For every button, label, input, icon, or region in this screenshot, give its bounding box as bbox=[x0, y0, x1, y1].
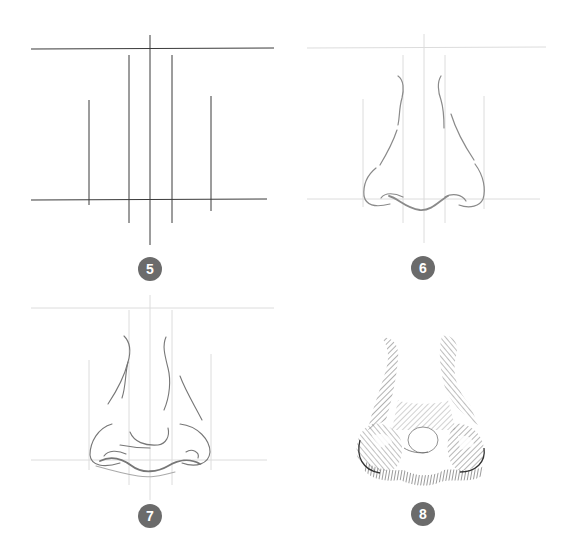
step-number: 5 bbox=[146, 261, 154, 277]
nose-drawing-steps-illustration bbox=[0, 0, 568, 553]
step-5-guidelines bbox=[31, 35, 274, 245]
step-badge-5: 5 bbox=[138, 257, 162, 281]
step-badge-8: 8 bbox=[411, 502, 435, 526]
step-number: 7 bbox=[146, 508, 154, 524]
step-badge-6: 6 bbox=[411, 256, 435, 280]
step-6-guidelines bbox=[307, 34, 546, 243]
step-7-guidelines bbox=[31, 295, 274, 500]
step-number: 8 bbox=[419, 506, 427, 522]
step-badge-7: 7 bbox=[138, 504, 162, 528]
step-8-shaded-nose bbox=[357, 336, 485, 486]
step-number: 6 bbox=[419, 260, 427, 276]
